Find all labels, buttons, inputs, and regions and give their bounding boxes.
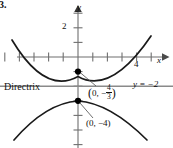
parabola-figure: 3. y x 2 4 Directrix y = −2 (0, −43) (0,… xyxy=(0,0,173,148)
directrix-equation-label: y = −2 xyxy=(133,80,158,89)
x-tick-label-4: 4 xyxy=(134,60,139,69)
vertex-lower-point xyxy=(75,98,81,104)
x-axis-label: x xyxy=(157,56,161,65)
y-tick-label-2: 2 xyxy=(62,22,67,31)
paren-close: ) xyxy=(112,86,116,100)
point-label-upper-text: 0, − xyxy=(92,88,106,98)
directrix-label: Directrix xyxy=(4,82,40,92)
x-axis-arrowhead xyxy=(162,53,170,61)
problem-number: 3. xyxy=(0,0,7,10)
vertex-upper-point xyxy=(75,69,81,75)
y-axis-label: y xyxy=(77,3,81,12)
point-label-lower-vertex: (0, −4) xyxy=(86,119,111,128)
point-label-upper-vertex: (0, −43) xyxy=(88,84,116,100)
downward-curve xyxy=(14,101,147,140)
